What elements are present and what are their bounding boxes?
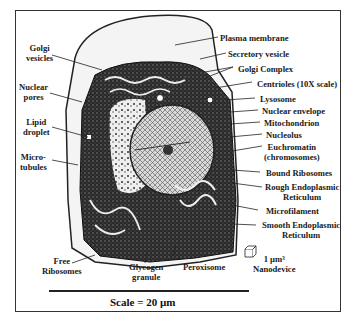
label-secretory-vesicle: Secretory vesicle [228,49,289,59]
label-lysosome: Lysosome [260,94,296,104]
scale-bar [49,290,249,292]
label-nucleolus: Nucleolus [266,130,302,140]
label-microtubules: Micro-tubules [20,152,47,172]
label-golgi-vesicles: Golgivesicles [26,43,53,63]
label-glycogen-granule: Glycogengranule [129,262,163,282]
label-nanodevice: 1 µm³Nanodevice [253,254,296,274]
label-peroxisome: Peroxisome [183,262,225,272]
label-rough-er: Rough EndoplasmicReticulum [265,182,339,202]
label-lipid-droplet: Lipiddroplet [23,117,50,137]
label-smooth-er: Smooth EndoplasmicReticulum [262,220,340,240]
label-plasma-membrane: Plasma membrane [220,33,289,43]
label-mitochondrion: Mitochondrion [264,118,319,128]
label-nuclear-envelope: Nuclear envelope [262,106,325,116]
label-centrioles: Centrioles (10X scale) [257,79,337,89]
label-golgi-complex: Golgi Complex [238,64,293,74]
label-euchromatin: Euchromatin(chromosomes) [264,142,320,162]
label-microfilament: Microfilament [266,206,319,216]
label-free-ribosomes: FreeRibosomes [42,256,82,276]
scale-label: Scale = 20 µm [110,296,175,308]
label-bound-ribosomes: Bound Ribosomes [266,168,332,178]
label-nuclear-pores: Nuclearpores [19,82,48,102]
